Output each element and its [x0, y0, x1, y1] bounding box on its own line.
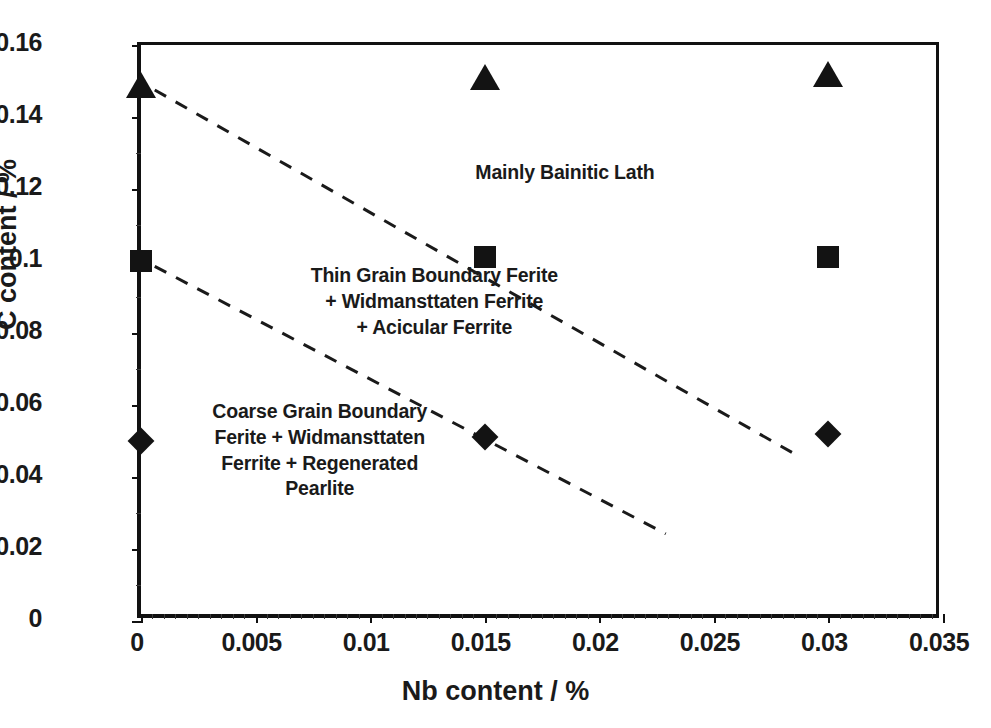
y-tick-label: 0.14	[0, 100, 42, 129]
x-tick-minor	[198, 614, 199, 619]
y-tick-label: 0	[0, 604, 42, 633]
x-tick-label: 0.01	[301, 628, 431, 657]
x-tick-minor	[725, 614, 726, 619]
data-point-triangle	[813, 61, 843, 87]
y-tick-label: 0.08	[0, 316, 42, 345]
y-tick-minor	[136, 369, 141, 370]
x-tick-label: 0.005	[187, 628, 317, 657]
x-tick-label: 0.025	[645, 628, 775, 657]
x-tick-minor	[244, 614, 245, 619]
x-tick-minor	[565, 614, 566, 619]
x-tick-minor	[863, 614, 864, 619]
x-tick-minor	[760, 614, 761, 619]
x-tick-minor	[439, 614, 440, 619]
y-tick-label: 0.06	[0, 388, 42, 417]
data-point-square	[130, 250, 152, 272]
x-tick-minor	[886, 614, 887, 619]
x-tick-minor	[748, 614, 749, 619]
x-tick-minor	[508, 614, 509, 619]
y-tick-minor	[136, 297, 141, 298]
x-tick-minor	[783, 614, 784, 619]
plot-area: Mainly Bainitic LathThin Grain Boundary …	[137, 42, 939, 618]
x-tick-minor	[393, 614, 394, 619]
x-tick-minor	[932, 614, 933, 619]
y-tick-minor	[136, 513, 141, 514]
region-label-mainly-bainitic-lath: Mainly Bainitic Lath	[475, 160, 654, 186]
data-point-diamond	[128, 428, 155, 455]
x-tick-minor	[588, 614, 589, 619]
y-tick-major	[132, 333, 141, 335]
y-tick-major	[132, 45, 141, 47]
region-label-line: Thin Grain Boundary Ferite	[311, 263, 558, 289]
x-tick-label: 0	[72, 628, 202, 657]
x-tick-minor	[301, 614, 302, 619]
y-tick-minor	[136, 153, 141, 154]
data-point-triangle	[470, 64, 500, 90]
x-tick-minor	[806, 614, 807, 619]
x-tick-minor	[874, 614, 875, 619]
x-tick-minor	[324, 614, 325, 619]
x-tick-minor	[427, 614, 428, 619]
x-tick-major	[828, 614, 830, 623]
x-tick-minor	[840, 614, 841, 619]
x-tick-minor	[336, 614, 337, 619]
y-tick-minor	[136, 225, 141, 226]
x-tick-minor	[164, 614, 165, 619]
region-label-coarse-grain-boundary-ferrite: Coarse Grain BoundaryFerite + Widmanstta…	[212, 399, 427, 502]
region-label-thin-grain-boundary-ferrite: Thin Grain Boundary Ferite+ Widmansttate…	[311, 263, 558, 340]
data-point-diamond	[471, 424, 498, 451]
region-label-line: Ferite + Widmansttaten	[212, 425, 427, 451]
x-tick-minor	[794, 614, 795, 619]
y-tick-major	[132, 189, 141, 191]
x-tick-minor	[611, 614, 612, 619]
x-tick-minor	[405, 614, 406, 619]
y-tick-major	[132, 405, 141, 407]
x-tick-minor	[542, 614, 543, 619]
y-tick-major	[132, 549, 141, 551]
x-tick-major	[256, 614, 258, 623]
x-tick-minor	[691, 614, 692, 619]
x-tick-minor	[909, 614, 910, 619]
x-tick-minor	[347, 614, 348, 619]
x-tick-minor	[519, 614, 520, 619]
x-tick-minor	[267, 614, 268, 619]
x-tick-minor	[473, 614, 474, 619]
y-tick-major	[132, 477, 141, 479]
y-tick-major	[132, 621, 141, 623]
x-tick-major	[370, 614, 372, 623]
x-tick-label: 0.02	[530, 628, 660, 657]
x-tick-minor	[210, 614, 211, 619]
y-tick-label: 0.16	[0, 28, 42, 57]
y-tick-major	[132, 117, 141, 119]
data-point-square	[817, 246, 839, 268]
x-tick-minor	[382, 614, 383, 619]
y-tick-label: 0.12	[0, 172, 42, 201]
x-axis-title: Nb content / %	[0, 676, 991, 707]
x-tick-major	[943, 614, 945, 623]
x-tick-minor	[416, 614, 417, 619]
x-tick-minor	[450, 614, 451, 619]
x-tick-minor	[278, 614, 279, 619]
x-tick-minor	[737, 614, 738, 619]
x-tick-minor	[576, 614, 577, 619]
region-label-line: Coarse Grain Boundary	[212, 399, 427, 425]
x-tick-minor	[622, 614, 623, 619]
x-tick-minor	[359, 614, 360, 619]
x-tick-minor	[152, 614, 153, 619]
region-label-line: + Acicular Ferrite	[311, 315, 558, 341]
x-tick-minor	[634, 614, 635, 619]
data-point-triangle	[126, 72, 156, 98]
x-tick-major	[599, 614, 601, 623]
x-tick-major	[714, 614, 716, 623]
figure-container: C content / % Nb content / % Mainly Bain…	[0, 0, 991, 728]
x-tick-label: 0.035	[874, 628, 991, 657]
y-tick-minor	[136, 585, 141, 586]
y-tick-label: 0.1	[0, 244, 42, 273]
data-point-diamond	[815, 420, 842, 447]
y-tick-label: 0.04	[0, 460, 42, 489]
x-tick-minor	[531, 614, 532, 619]
region-label-line: Pearlite	[212, 476, 427, 502]
x-tick-minor	[702, 614, 703, 619]
x-tick-minor	[187, 614, 188, 619]
x-tick-minor	[233, 614, 234, 619]
